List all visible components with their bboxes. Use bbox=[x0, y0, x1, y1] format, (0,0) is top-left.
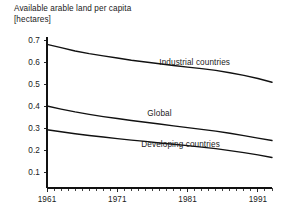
x-tick-label: 1981 bbox=[178, 195, 197, 204]
y-tick-label: 0.1 bbox=[28, 168, 40, 177]
line-chart-plot: 0.70.60.50.40.30.20.1 1961197119811991 I… bbox=[0, 0, 284, 217]
y-tick-label: 0.2 bbox=[28, 146, 40, 155]
x-axis-ticks: 1961197119811991 bbox=[38, 188, 272, 204]
series-inline-labels: Industrial countriesGlobalDeveloping cou… bbox=[141, 58, 230, 148]
y-tick-label: 0.7 bbox=[28, 36, 40, 45]
y-tick-label: 0.4 bbox=[28, 102, 40, 111]
x-tick-label: 1961 bbox=[38, 195, 57, 204]
chart-container: Available arable land per capita [hectar… bbox=[0, 0, 284, 217]
y-axis-ticks: 0.70.60.50.40.30.20.1 bbox=[28, 36, 47, 177]
y-tick-label: 0.5 bbox=[28, 80, 40, 89]
series-label-industrial-countries: Industrial countries bbox=[159, 58, 230, 67]
series-label-global: Global bbox=[147, 109, 171, 118]
y-tick-label: 0.3 bbox=[28, 124, 40, 133]
x-tick-label: 1991 bbox=[249, 195, 268, 204]
series-label-developing-countries: Developing countries bbox=[141, 140, 219, 149]
x-tick-label: 1971 bbox=[108, 195, 127, 204]
y-tick-label: 0.6 bbox=[28, 58, 40, 67]
